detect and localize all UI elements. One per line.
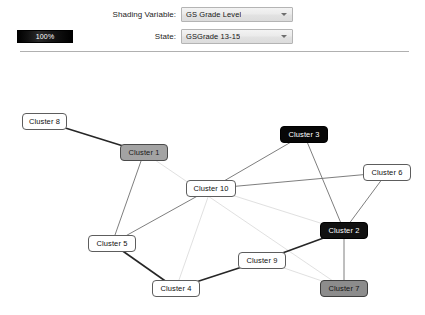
graph-edge (211, 173, 387, 189)
legend-percentage-label: 100% (36, 33, 55, 40)
chevron-down-icon (281, 35, 287, 38)
graph-edge (304, 135, 344, 231)
shading-variable-row: Shading Variable: GS Grade Level (108, 7, 293, 22)
state-dropdown[interactable]: GSGrade 13-15 (181, 29, 293, 44)
graph-node-cluster4[interactable]: Cluster 4 (152, 280, 200, 297)
graph-node-label: Cluster 8 (29, 117, 60, 126)
graph-node-cluster2[interactable]: Cluster 2 (320, 222, 368, 239)
shading-variable-label: Shading Variable: (108, 10, 181, 19)
graph-node-label: Cluster 5 (97, 239, 128, 248)
graph-node-label: Cluster 3 (289, 130, 320, 139)
graph-node-cluster7[interactable]: Cluster 7 (320, 280, 368, 297)
graph-edge (112, 153, 144, 244)
graph-node-label: Cluster 9 (247, 256, 278, 265)
state-row: State: GSGrade 13-15 (108, 29, 293, 44)
graph-node-label: Cluster 1 (129, 148, 160, 157)
shading-legend-bar: 100% (17, 30, 73, 43)
shading-variable-dropdown[interactable]: GS Grade Level (181, 7, 293, 22)
state-value: GSGrade 13-15 (182, 32, 240, 41)
cluster-network-graph: Cluster 8Cluster 1Cluster 3Cluster 6Clus… (0, 56, 425, 315)
graph-node-label: Cluster 4 (161, 284, 192, 293)
graph-node-cluster1[interactable]: Cluster 1 (120, 144, 168, 161)
graph-node-label: Cluster 6 (372, 168, 403, 177)
graph-node-label: Cluster 10 (193, 184, 228, 193)
graph-node-label: Cluster 7 (329, 284, 360, 293)
graph-node-cluster5[interactable]: Cluster 5 (88, 235, 136, 252)
graph-node-cluster9[interactable]: Cluster 9 (238, 252, 286, 269)
panel-divider (20, 51, 409, 52)
state-label: State: (108, 32, 181, 41)
graph-node-cluster10[interactable]: Cluster 10 (186, 180, 236, 197)
control-panel: Shading Variable: GS Grade Level State: … (0, 0, 425, 50)
graph-edge (176, 189, 211, 289)
shading-variable-value: GS Grade Level (182, 10, 241, 19)
graph-node-cluster3[interactable]: Cluster 3 (280, 126, 328, 143)
graph-node-label: Cluster 2 (329, 226, 360, 235)
graph-node-cluster6[interactable]: Cluster 6 (363, 164, 411, 181)
graph-node-cluster8[interactable]: Cluster 8 (22, 113, 67, 130)
chevron-down-icon (281, 13, 287, 16)
